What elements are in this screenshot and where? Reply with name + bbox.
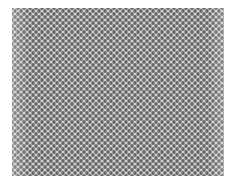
mesh-edge-shading — [12, 8, 224, 176]
